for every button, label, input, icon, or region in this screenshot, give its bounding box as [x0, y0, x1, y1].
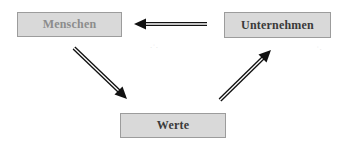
scan-artifact: ·˙·	[150, 44, 158, 52]
arrow-unternehmen-to-menschen	[134, 19, 207, 30]
arrow-menschen-to-werte	[74, 48, 127, 99]
node-menschen: Menschen	[17, 12, 122, 37]
node-label: Unternehmen	[241, 18, 314, 33]
node-label: Werte	[157, 118, 189, 133]
node-werte: Werte	[120, 113, 226, 138]
arrow-werte-to-unternehmen	[220, 50, 271, 100]
node-unternehmen: Unternehmen	[224, 12, 331, 38]
scan-artifact: ˙·	[316, 46, 322, 54]
node-label: Menschen	[43, 17, 97, 32]
